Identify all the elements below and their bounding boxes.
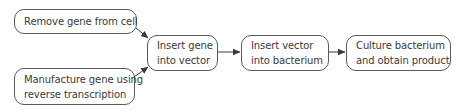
node-insert-vector: Insert vector into bacterium <box>241 35 329 71</box>
node-label-line: Culture bacterium <box>356 38 449 53</box>
node-label-line: Manufacture gene using <box>24 72 143 87</box>
node-culture-bacterium: Culture bacterium and obtain product <box>346 35 451 71</box>
node-insert-gene: Insert gene into vector <box>147 35 218 71</box>
node-label-line: into vector <box>157 53 213 68</box>
node-label-line: Remove gene from cell <box>24 14 138 29</box>
node-label-line: reverse transcription <box>24 87 143 102</box>
node-label-line: Insert vector <box>251 38 323 53</box>
flowchart-canvas: Remove gene from cell Manufacture gene u… <box>0 0 463 112</box>
node-label-line: Insert gene <box>157 38 213 53</box>
node-label-line: into bacterium <box>251 53 323 68</box>
node-label-line: and obtain product <box>356 53 449 68</box>
node-remove-gene: Remove gene from cell <box>14 9 137 34</box>
node-manufacture-gene: Manufacture gene using reverse transcrip… <box>14 68 135 105</box>
arrow-remove-to-insert-gene <box>136 28 148 38</box>
